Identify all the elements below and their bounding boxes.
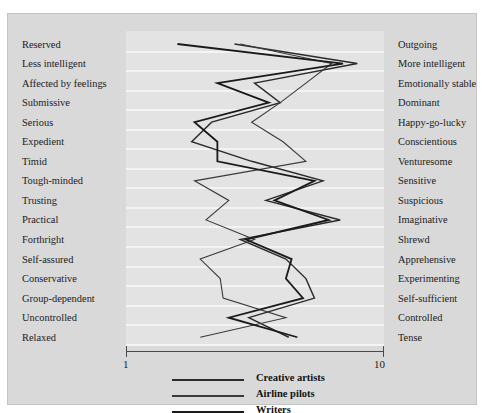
profile-line: [195, 44, 332, 337]
figure-caption-strip: [0, 0, 483, 13]
chart-panel: ReservedLess intelligentAffected by feel…: [7, 13, 477, 405]
x-axis-min-label: 1: [123, 358, 129, 370]
profile-lines-svg: [8, 14, 478, 406]
legend-label: Writers: [256, 404, 291, 413]
chart-legend: Creative artistsAirline pilotsWriters: [172, 372, 432, 413]
x-axis-line: [126, 351, 384, 352]
legend-row[interactable]: Airline pilots: [172, 388, 432, 404]
legend-line-swatch: [172, 395, 244, 397]
x-axis-tick-max: [383, 346, 384, 357]
legend-label: Creative artists: [256, 372, 325, 383]
profile-line: [192, 44, 358, 337]
legend-row[interactable]: Writers: [172, 404, 432, 413]
legend-label: Airline pilots: [256, 388, 315, 399]
x-axis-max-label: 10: [374, 358, 385, 370]
legend-line-swatch: [172, 379, 244, 381]
legend-row[interactable]: Creative artists: [172, 372, 432, 388]
x-axis-tick-min: [126, 346, 127, 357]
figure-container: ReservedLess intelligentAffected by feel…: [0, 0, 483, 413]
